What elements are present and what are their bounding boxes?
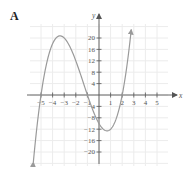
x-tick-label: −4	[49, 99, 57, 107]
y-tick-label: 12	[88, 57, 96, 65]
y-tick-label: 4	[92, 80, 96, 88]
x-tick-label: 5	[155, 99, 159, 107]
x-tick-label: −5	[37, 99, 45, 107]
x-tick-label: 4	[144, 99, 148, 107]
y-tick-label: −12	[84, 126, 95, 134]
x-tick-label: 1	[109, 99, 113, 107]
function-graph: −5−4−3−2−112345 20161284−4−8−12−16−20 x …	[0, 0, 190, 176]
y-tick-label: 20	[88, 34, 96, 42]
y-tick-label: −8	[88, 114, 96, 122]
x-axis-label: x	[178, 91, 183, 100]
x-tick-label: −3	[60, 99, 68, 107]
x-tick-label: −2	[72, 99, 80, 107]
x-tick-label: 3	[132, 99, 136, 107]
y-tick-label: 8	[92, 69, 96, 77]
y-tick-label: −16	[84, 137, 95, 145]
y-axis-label: y	[91, 11, 96, 20]
y-tick-label: 16	[88, 46, 96, 54]
y-tick-label: −20	[84, 148, 95, 156]
